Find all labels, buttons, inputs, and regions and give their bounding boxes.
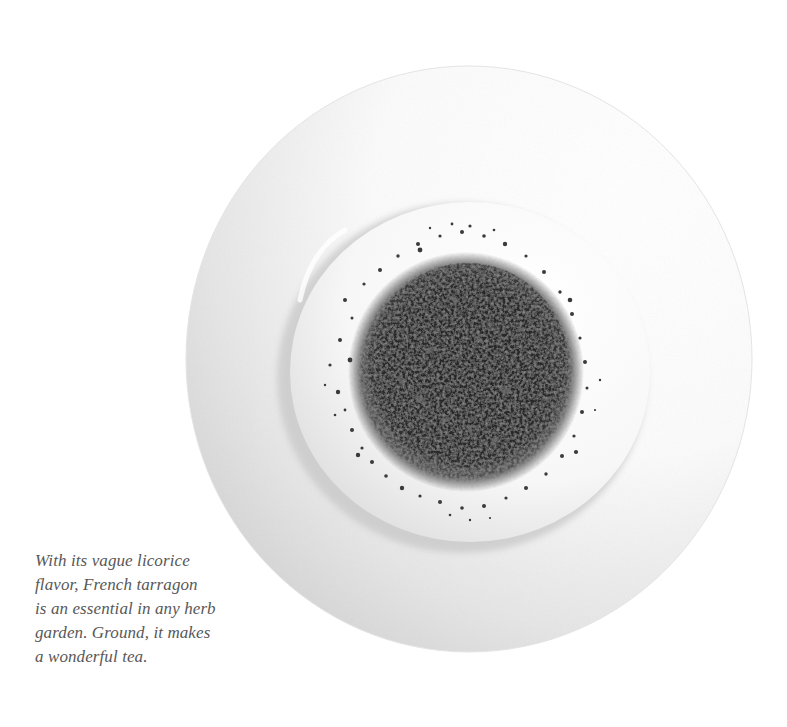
- caption-line: garden. Ground, it makes: [35, 621, 235, 645]
- photo-caption: With its vague licorice flavor, French t…: [35, 549, 235, 669]
- photo-scene: With its vague licorice flavor, French t…: [0, 0, 787, 727]
- caption-line: is an essential in any herb: [35, 597, 235, 621]
- caption-line: a wonderful tea.: [35, 645, 235, 669]
- caption-line: flavor, French tarragon: [35, 573, 235, 597]
- caption-line: With its vague licorice: [35, 549, 235, 573]
